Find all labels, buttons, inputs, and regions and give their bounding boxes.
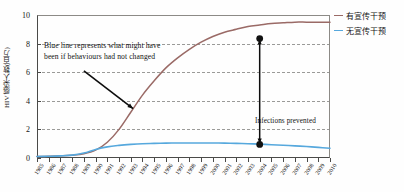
x-tick-mark: [178, 158, 179, 162]
legend-label: 有宣传干预: [346, 10, 386, 21]
x-tick-mark: [295, 158, 296, 162]
plot-area: [37, 15, 330, 158]
x-tick-label: 2000: [209, 162, 221, 175]
x-tick-mark: [166, 158, 167, 162]
x-tick-mark: [330, 158, 331, 162]
x-tick-mark: [131, 158, 132, 162]
x-tick-mark: [107, 158, 108, 162]
x-tick-mark: [283, 158, 284, 162]
x-tick-mark: [225, 158, 226, 162]
x-tick-label: 2003: [244, 162, 256, 175]
y-tick-label: 2: [16, 125, 30, 134]
x-tick-label: 1988: [68, 162, 80, 175]
x-tick-label: 2004: [256, 162, 268, 175]
x-tick-label: 1998: [185, 162, 197, 175]
annotation-line-2: been if behaviours had not changed: [44, 51, 160, 62]
x-tick-label: 1986: [45, 162, 57, 175]
x-tick-label: 1985: [33, 162, 45, 175]
legend-item-without-intervention[interactable]: 无宣传干预: [334, 23, 404, 38]
x-tick-label: 2010: [326, 162, 338, 175]
legend-item-with-intervention[interactable]: 有宣传干预: [334, 8, 404, 23]
x-tick-label: 2005: [267, 162, 279, 175]
x-tick-label: 1989: [80, 162, 92, 175]
x-tick-mark: [72, 158, 73, 162]
x-tick-mark: [189, 158, 190, 162]
x-tick-mark: [201, 158, 202, 162]
x-tick-mark: [154, 158, 155, 162]
y-axis-title: HIV 感染人数(百万): [0, 18, 16, 138]
x-tick-label: 2007: [291, 162, 303, 175]
x-tick-mark: [84, 158, 85, 162]
x-tick-label: 1995: [150, 162, 162, 175]
chart-container: HIV 感染人数(百万) 0246810 1985198619871988198…: [0, 0, 404, 192]
y-tick-label: 6: [16, 68, 30, 77]
x-tick-mark: [96, 158, 97, 162]
x-tick-label: 1994: [139, 162, 151, 175]
x-tick-label: 1999: [197, 162, 209, 175]
x-tick-mark: [260, 158, 261, 162]
x-tick-label: 1992: [115, 162, 127, 175]
x-tick-mark: [318, 158, 319, 162]
x-tick-label: 2001: [221, 162, 233, 175]
x-tick-label: 2008: [303, 162, 315, 175]
x-tick-mark: [307, 158, 308, 162]
legend-swatch-icon: [334, 15, 343, 16]
x-tick-label: 1993: [127, 162, 139, 175]
y-tick-label: 4: [16, 97, 30, 106]
legend: 有宣传干预无宣传干预: [334, 8, 404, 38]
x-tick-label: 1990: [92, 162, 104, 175]
x-tick-label: 1991: [103, 162, 115, 175]
x-tick-label: 2009: [314, 162, 326, 175]
x-tick-mark: [213, 158, 214, 162]
annotation-infections-prevented: Infections prevented: [255, 116, 316, 126]
x-tick-label: 1996: [162, 162, 174, 175]
x-tick-label: 2006: [279, 162, 291, 175]
legend-label: 无宣传干预: [346, 25, 386, 36]
x-tick-label: 2002: [232, 162, 244, 175]
y-tick-label: 8: [16, 40, 30, 49]
y-tick-label: 0: [16, 154, 30, 163]
x-tick-mark: [119, 158, 120, 162]
x-tick-mark: [37, 158, 38, 162]
x-tick-mark: [60, 158, 61, 162]
x-tick-label: 1987: [57, 162, 69, 175]
annotation-blue-line-note: Blue line represents what might have bee…: [44, 40, 160, 62]
x-tick-mark: [248, 158, 249, 162]
x-tick-label: 1997: [174, 162, 186, 175]
y-tick-label: 10: [16, 11, 30, 20]
x-tick-mark: [49, 158, 50, 162]
legend-swatch-icon: [334, 30, 343, 31]
x-tick-mark: [236, 158, 237, 162]
x-tick-mark: [271, 158, 272, 162]
x-tick-mark: [142, 158, 143, 162]
annotation-line-1: Blue line represents what might have: [44, 40, 160, 51]
